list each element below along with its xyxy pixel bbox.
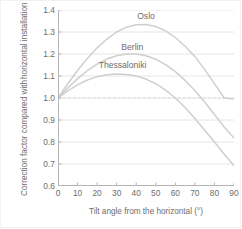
- y-tick-label: 0.8: [43, 137, 55, 147]
- y-axis-label-line-2: horizontal installation (-): [20, 0, 30, 79]
- series-label-berlin: Berlin: [121, 42, 143, 52]
- x-tick-label: 40: [132, 188, 141, 198]
- x-tick-label: 20: [92, 188, 101, 198]
- series-lines: [58, 25, 234, 166]
- x-tick-label: 70: [190, 188, 199, 198]
- x-axis-label: Tilt angle from the horizontal (°): [58, 207, 234, 216]
- y-tick-label: 1.2: [43, 49, 55, 59]
- series-label-oslo: Oslo: [137, 11, 155, 21]
- x-tick-label: 50: [151, 188, 160, 198]
- x-tick-label: 90: [229, 188, 238, 198]
- y-tick-label: 1.1: [43, 71, 55, 81]
- y-tick-label: 1.4: [43, 5, 55, 15]
- plot-area: 0.60.70.80.91.01.11.21.31.4 010203040506…: [58, 10, 234, 186]
- y-tick-label: 0.9: [43, 115, 55, 125]
- chart-figure: Correction factor compared with horizont…: [0, 0, 242, 229]
- y-tick-label: 0.6: [43, 181, 55, 191]
- series-label-thessaloniki: Thessaloniki: [99, 60, 147, 70]
- y-tick-label: 1.3: [43, 27, 55, 37]
- x-tick-label: 0: [56, 188, 61, 198]
- x-tick-label: 30: [112, 188, 121, 198]
- y-tick-label: 1.0: [43, 93, 55, 103]
- x-tick-label: 60: [171, 188, 180, 198]
- chart-canvas: [58, 10, 234, 186]
- gridlines: [58, 10, 234, 164]
- y-axis-label: Correction factor compared with horizont…: [8, 0, 42, 189]
- x-tick-label: 80: [210, 188, 219, 198]
- y-tick-label: 0.7: [43, 159, 55, 169]
- y-axis-label-line-1: Correction factor compared with: [20, 80, 30, 196]
- x-tick-label: 10: [73, 188, 82, 198]
